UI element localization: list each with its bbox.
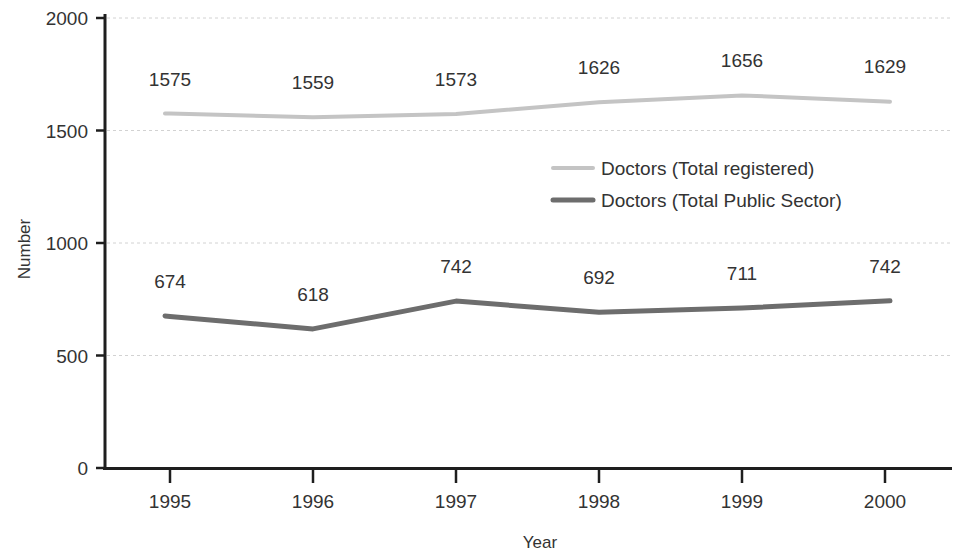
- data-point-label: 1575: [149, 69, 191, 90]
- data-point-label: 711: [727, 263, 757, 284]
- y-axis-tick-label: 0: [77, 458, 88, 479]
- chart-background: [0, 0, 955, 556]
- legend-label: Doctors (Total registered): [601, 158, 814, 179]
- x-axis-tick-label: 1995: [149, 491, 191, 512]
- x-axis-tick-label: 1998: [578, 491, 620, 512]
- y-axis-title: Number: [15, 218, 34, 279]
- legend-label: Doctors (Total Public Sector): [601, 190, 842, 211]
- data-point-label: 618: [297, 284, 329, 305]
- data-point-label: 742: [440, 256, 472, 277]
- data-point-label: 1573: [435, 69, 477, 90]
- x-axis-title: Year: [523, 533, 558, 552]
- data-point-label: 1629: [864, 56, 906, 77]
- data-point-label: 674: [154, 271, 186, 292]
- x-axis-tick-label: 1999: [721, 491, 763, 512]
- y-axis-tick-label: 1000: [46, 233, 88, 254]
- y-axis-tick-label: 2000: [46, 8, 88, 29]
- y-axis-tick-label: 1500: [46, 121, 88, 142]
- data-point-label: 1559: [292, 72, 334, 93]
- line-chart: 0500100015002000 19951996199719981999200…: [0, 0, 955, 556]
- data-point-label: 1626: [578, 57, 620, 78]
- data-point-label: 1656: [721, 50, 763, 71]
- data-point-label: 692: [583, 267, 615, 288]
- x-axis-tick-label: 2000: [864, 491, 906, 512]
- x-axis-tick-label: 1997: [435, 491, 477, 512]
- chart-canvas: 0500100015002000 19951996199719981999200…: [0, 0, 955, 556]
- y-axis-tick-label: 500: [56, 346, 88, 367]
- data-point-label: 742: [869, 256, 901, 277]
- x-axis-tick-label: 1996: [292, 491, 334, 512]
